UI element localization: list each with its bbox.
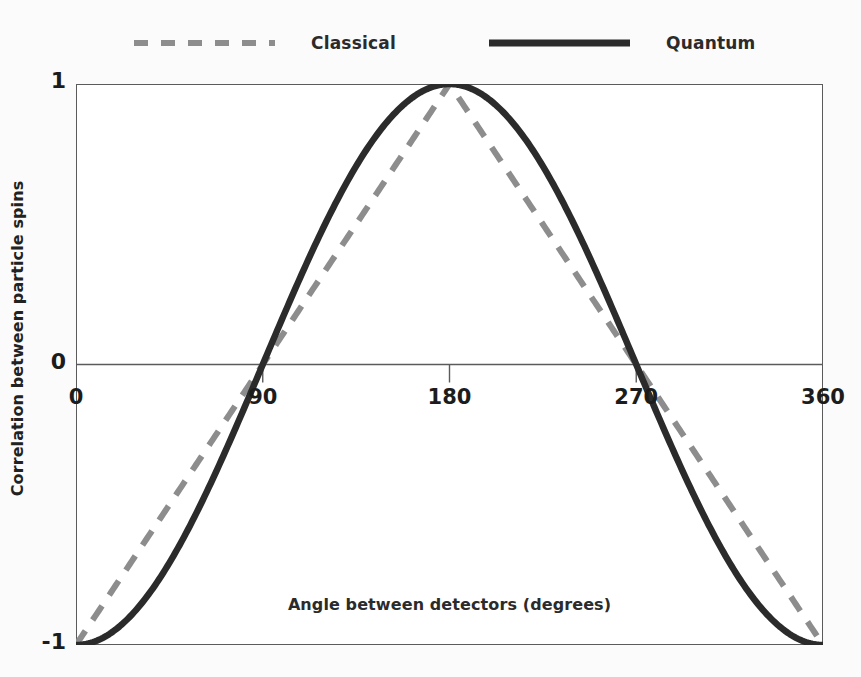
x-axis-ticks <box>76 365 823 383</box>
legend-label-classical: Classical <box>311 33 396 53</box>
legend-label-quantum: Quantum <box>666 33 755 53</box>
plot-area <box>76 84 823 645</box>
y-tick-label-0: 0 <box>51 349 66 374</box>
x-tick-label-180: 180 <box>428 385 472 409</box>
solid-line-icon <box>489 36 630 50</box>
y-axis-title-text: Correlation between particle spins <box>9 181 28 497</box>
legend-entry-classical[interactable]: Classical <box>134 26 396 60</box>
x-tick-label-270: 270 <box>614 385 658 409</box>
x-tick-label-0: 0 <box>69 385 84 409</box>
x-axis-title: Angle between detectors (degrees) <box>76 595 823 614</box>
y-axis-title: Correlation between particle spins <box>0 0 36 677</box>
x-tick-label-90: 90 <box>248 385 277 409</box>
plot-canvas <box>76 84 823 645</box>
y-tick-label-minus-1: -1 <box>42 629 66 654</box>
correlation-chart-figure: Classical Quantum Correlation between pa… <box>0 0 861 677</box>
x-tick-label-360: 360 <box>801 385 845 409</box>
legend-entry-quantum[interactable]: Quantum <box>489 26 755 60</box>
dashed-line-icon <box>134 36 275 50</box>
chart-legend: Classical Quantum <box>0 26 861 60</box>
y-tick-label-1: 1 <box>51 68 66 93</box>
